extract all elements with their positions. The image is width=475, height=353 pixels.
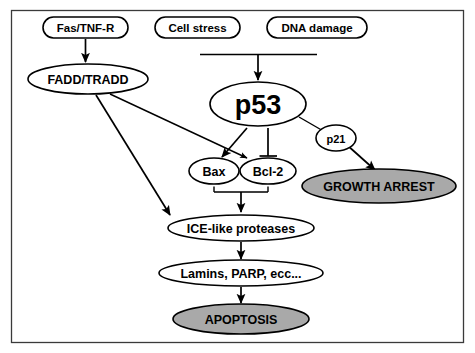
bcl2-label: Bcl-2 <box>253 165 284 179</box>
pathway-svg-canvas: Fas/TNF-R Cell stress DNA damage FADD/TR… <box>0 0 475 353</box>
node-cell-stress: Cell stress <box>155 17 240 38</box>
apoptosis-label: APOPTOSIS <box>205 313 278 327</box>
p21-label: p21 <box>327 133 346 145</box>
p53-label: p53 <box>235 90 282 120</box>
cell-stress-label: Cell stress <box>168 22 226 34</box>
node-bax: Bax <box>189 158 239 184</box>
substrates-label: Lamins, PARP, ecc... <box>180 267 301 281</box>
node-dna-damage: DNA damage <box>267 17 367 38</box>
fas-tnf-r-label: Fas/TNF-R <box>57 22 115 34</box>
node-fas-tnf-r: Fas/TNF-R <box>43 17 128 38</box>
node-growth-arrest: GROWTH ARREST <box>302 169 456 203</box>
bax-label: Bax <box>203 165 226 179</box>
node-bcl2: Bcl-2 <box>240 158 296 184</box>
node-apoptosis: APOPTOSIS <box>173 304 309 334</box>
dna-damage-label: DNA damage <box>281 22 352 34</box>
ice-proteases-label: ICE-like proteases <box>187 222 295 236</box>
edge-fadd-to-ice <box>96 95 170 215</box>
node-p53: p53 <box>210 82 306 126</box>
edge-p21-to-growth-arrest <box>347 145 375 170</box>
growth-arrest-label: GROWTH ARREST <box>323 180 435 194</box>
bax-bcl2-bracket <box>214 187 268 193</box>
fadd-tradd-label: FADD/TRADD <box>47 73 128 87</box>
node-p21: p21 <box>316 125 356 151</box>
pathway-diagram-figure: Fas/TNF-R Cell stress DNA damage FADD/TR… <box>0 0 475 353</box>
node-substrates: Lamins, PARP, ecc... <box>159 260 323 286</box>
node-ice-proteases: ICE-like proteases <box>168 215 314 241</box>
node-fadd-tradd: FADD/TRADD <box>28 64 148 94</box>
